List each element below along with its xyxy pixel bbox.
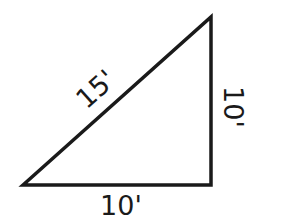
right-triangle-shape [23,17,211,185]
hypotenuse-length-label: 15' [70,63,122,114]
right-side-length-label: 10' [218,86,249,128]
triangle-diagram: 15' 10' 10' [0,0,286,221]
bottom-side-length-label: 10' [100,190,142,221]
